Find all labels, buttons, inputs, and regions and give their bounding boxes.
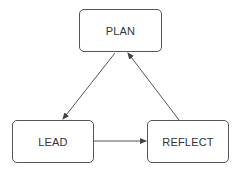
node-reflect: REFLECT [147, 120, 229, 163]
node-lead: LEAD [12, 120, 94, 163]
node-plan: PLAN [79, 9, 162, 52]
edge-reflect-to-plan [128, 53, 179, 120]
node-reflect-label: REFLECT [162, 136, 214, 148]
node-lead-label: LEAD [38, 136, 68, 148]
edge-plan-to-lead [63, 53, 115, 119]
node-plan-label: PLAN [106, 25, 136, 37]
